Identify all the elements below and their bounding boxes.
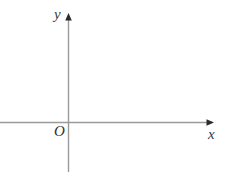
x-axis-label: x xyxy=(208,127,215,142)
origin-label: O xyxy=(54,124,65,139)
coordinate-figure: y x O xyxy=(0,0,229,180)
y-axis-arrowhead-icon xyxy=(65,13,72,21)
x-axis-arrowhead-icon xyxy=(207,119,215,126)
y-axis-label: y xyxy=(54,7,61,22)
axes-drawing xyxy=(0,0,229,180)
